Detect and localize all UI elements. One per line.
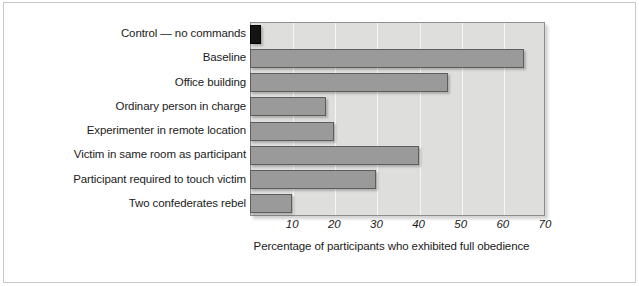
bar[interactable] — [250, 194, 292, 213]
category-label: Ordinary person in charge — [0, 100, 246, 112]
category-label: Baseline — [0, 51, 246, 63]
bar[interactable] — [250, 170, 376, 189]
category-label: Participant required to touch victim — [0, 173, 246, 185]
bar-row — [250, 168, 545, 192]
x-axis-title-text: Percentage of participants who exhibited… — [254, 240, 530, 252]
bar-series — [250, 22, 545, 216]
bar-row — [250, 71, 545, 95]
bar[interactable] — [250, 146, 419, 165]
x-axis-title: Percentage of participants who exhibited… — [0, 240, 639, 252]
category-axis-labels: Control — no commandsBaselineOffice buil… — [0, 22, 246, 216]
x-tick-label: 10 — [286, 218, 299, 230]
x-tick-label: 70 — [539, 218, 552, 230]
category-label: Victim in same room as participant — [0, 148, 246, 160]
bar[interactable] — [250, 97, 326, 116]
bar[interactable] — [250, 122, 334, 141]
bar-chart: Control — no commandsBaselineOffice buil… — [0, 0, 639, 286]
bar[interactable] — [250, 73, 448, 92]
bar-row — [250, 46, 545, 70]
x-tick-label: 30 — [370, 218, 383, 230]
category-label: Office building — [0, 76, 246, 88]
x-tick-label: 50 — [454, 218, 467, 230]
bar[interactable] — [250, 49, 524, 68]
category-label: Experimenter in remote location — [0, 124, 246, 136]
figure: Control — no commandsBaselineOffice buil… — [0, 0, 639, 286]
x-axis-ticks: 10203040506070 — [250, 218, 545, 236]
bar-row — [250, 192, 545, 216]
bar-row — [250, 143, 545, 167]
bar[interactable] — [250, 25, 261, 44]
x-tick-label: 60 — [496, 218, 509, 230]
x-tick-label: 40 — [412, 218, 425, 230]
category-label: Two confederates rebel — [0, 197, 246, 209]
bar-row — [250, 22, 545, 46]
category-label: Control — no commands — [0, 27, 246, 39]
x-tick-label: 20 — [328, 218, 341, 230]
bar-row — [250, 119, 545, 143]
bar-row — [250, 95, 545, 119]
